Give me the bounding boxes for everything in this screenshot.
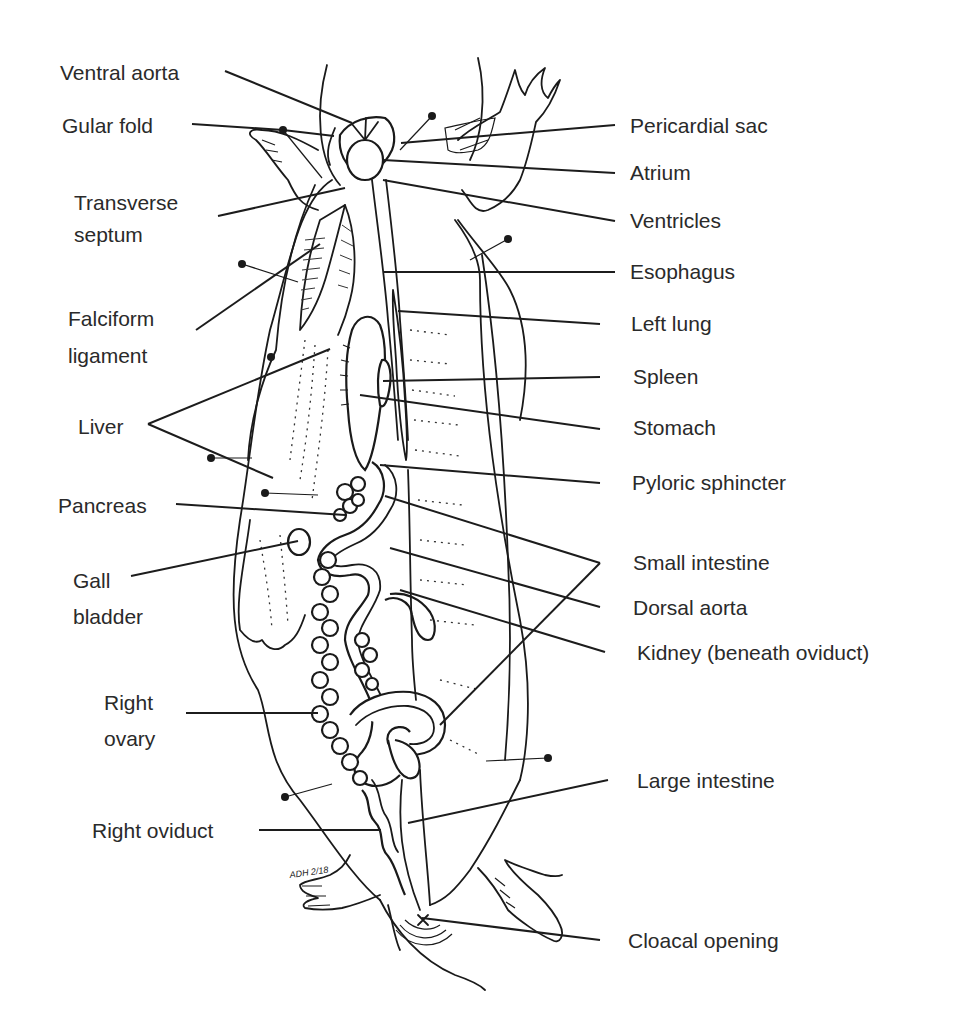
label-spleen: Spleen xyxy=(633,364,698,389)
label-left-lung: Left lung xyxy=(631,311,712,336)
label-liver: Liver xyxy=(78,414,124,439)
label-gall-bladder: Gall bladder xyxy=(73,563,143,635)
heart-region xyxy=(328,117,394,180)
label-stomach: Stomach xyxy=(633,415,716,440)
label-esophagus: Esophagus xyxy=(630,259,735,284)
label-atrium: Atrium xyxy=(630,160,691,185)
label-right-ovary: Right ovary xyxy=(104,685,155,757)
label-large-intestine: Large intestine xyxy=(637,768,775,793)
label-ventricles: Ventricles xyxy=(630,208,721,233)
label-right-oviduct: Right oviduct xyxy=(92,818,213,843)
label-kidney: Kidney (beneath oviduct) xyxy=(637,640,869,665)
label-gular-fold: Gular fold xyxy=(62,113,153,138)
label-cloacal-opening: Cloacal opening xyxy=(628,928,779,953)
label-pancreas: Pancreas xyxy=(58,493,147,518)
label-falciform-ligament: Falciform ligament xyxy=(68,300,154,374)
label-pyloric-sphincter: Pyloric sphincter xyxy=(632,470,786,495)
salamander-dissection-drawing: ADH 2/18 xyxy=(0,0,975,1036)
label-small-intestine: Small intestine xyxy=(633,550,770,575)
label-pericardial-sac: Pericardial sac xyxy=(630,113,768,138)
label-dorsal-aorta: Dorsal aorta xyxy=(633,595,747,620)
label-transverse-septum: Transverse septum xyxy=(74,187,178,251)
label-ventral-aorta: Ventral aorta xyxy=(60,60,179,85)
leader-lines xyxy=(131,71,615,940)
